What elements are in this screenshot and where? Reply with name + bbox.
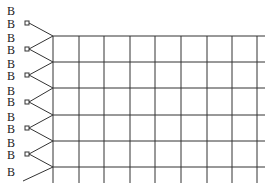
connector-line <box>29 141 53 154</box>
connector-line <box>29 49 53 62</box>
boundary-node <box>25 152 29 156</box>
boundary-label: B <box>7 18 15 30</box>
connector-line <box>29 36 53 49</box>
connector-line <box>29 128 53 141</box>
connector-line <box>29 75 53 88</box>
boundary-node <box>25 73 29 77</box>
connector-line <box>29 62 53 75</box>
boundary-label: B <box>7 5 15 17</box>
boundary-label: B <box>7 70 15 82</box>
connector-line <box>23 167 53 181</box>
boundary-node <box>25 100 29 104</box>
grid-lines <box>0 0 277 192</box>
boundary-node <box>25 126 29 130</box>
connector-line <box>29 102 53 115</box>
connector-line <box>29 23 53 36</box>
connector-line <box>29 88 53 102</box>
connector-line <box>29 154 53 167</box>
boundary-node <box>25 47 29 51</box>
boundary-label: B <box>7 166 15 178</box>
connector-line <box>29 115 53 128</box>
boundary-node <box>25 21 29 25</box>
boundary-label: B <box>7 123 15 135</box>
boundary-label: B <box>7 149 15 161</box>
boundary-label: B <box>7 44 15 56</box>
boundary-label: B <box>7 96 15 108</box>
